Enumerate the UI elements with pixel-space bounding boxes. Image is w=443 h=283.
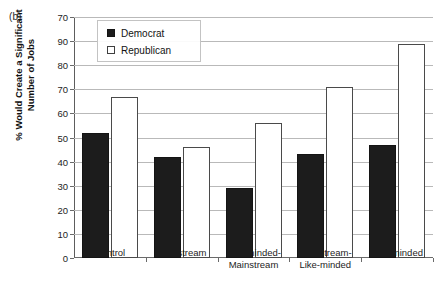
y-tick-label: 80 (57, 60, 68, 71)
gridline (74, 89, 433, 90)
legend-label-republican: Republican (121, 45, 171, 56)
bar-republican (183, 147, 210, 258)
y-tick-mark (70, 210, 74, 211)
y-axis-title: % Would Create a Significant Number of J… (13, 0, 43, 175)
y-tick-label: 10 (57, 228, 68, 239)
x-axis-label-line: Mainstream (218, 259, 290, 271)
bar-republican (326, 87, 353, 258)
gridline (74, 17, 433, 18)
y-tick-mark (70, 186, 74, 187)
x-tick-mark (146, 258, 147, 262)
y-tick-label: 70 (57, 12, 68, 23)
y-tick-mark (70, 234, 74, 235)
y-tick-label: 20 (57, 204, 68, 215)
legend-entry-democrat: Democrat (107, 26, 164, 40)
y-tick-label: 70 (57, 84, 68, 95)
y-tick-mark (70, 89, 74, 90)
y-tick-mark (70, 138, 74, 139)
bar-democrat (82, 133, 109, 258)
x-axis-label: Like-minded (361, 247, 433, 259)
legend-swatch-democrat-icon (107, 29, 115, 37)
y-axis-title-line2: Number of Jobs (25, 0, 37, 175)
legend-entry-republican: Republican (107, 43, 171, 57)
x-axis-label-line: Like-minded- (218, 247, 290, 259)
y-tick-mark (70, 41, 74, 42)
x-axis-label: Mainstream-Like-minded (289, 247, 361, 270)
y-tick-mark (70, 113, 74, 114)
x-axis-label-line: Like-minded (289, 259, 361, 271)
bar-democrat (369, 145, 396, 258)
x-axis-label-line: Mainstream (146, 247, 218, 259)
gridline (74, 65, 433, 66)
x-axis-label: Control (74, 247, 146, 259)
legend-label-democrat: Democrat (121, 28, 164, 39)
y-tick-mark (70, 162, 74, 163)
y-tick-label: 0 (63, 253, 68, 264)
y-tick-label: 50 (57, 132, 68, 143)
x-axis-label-line: Like-minded (361, 247, 433, 259)
y-tick-mark (70, 17, 74, 18)
bar-democrat (154, 157, 181, 258)
x-tick-mark (433, 258, 434, 262)
y-axis-title-line1: % Would Create a Significant (13, 9, 24, 140)
y-tick-label: 30 (57, 180, 68, 191)
y-tick-mark (70, 65, 74, 66)
x-axis-label: Like-minded-Mainstream (218, 247, 290, 270)
x-axis-label-line: Mainstream- (289, 247, 361, 259)
x-axis-label: Mainstream (146, 247, 218, 259)
bar-republican (111, 97, 138, 258)
legend-box: Democrat Republican (97, 20, 201, 62)
y-tick-label: 90 (57, 36, 68, 47)
bar-republican (255, 123, 282, 258)
bar-republican (398, 44, 425, 258)
y-tick-label: 40 (57, 156, 68, 167)
y-tick-label: 60 (57, 108, 68, 119)
x-axis-label-line: Control (74, 247, 146, 259)
legend-swatch-republican-icon (107, 46, 115, 54)
x-tick-mark (361, 258, 362, 262)
bar-democrat (297, 154, 324, 258)
figure-panel-b: (b) % Would Create a Significant Number … (0, 0, 443, 283)
